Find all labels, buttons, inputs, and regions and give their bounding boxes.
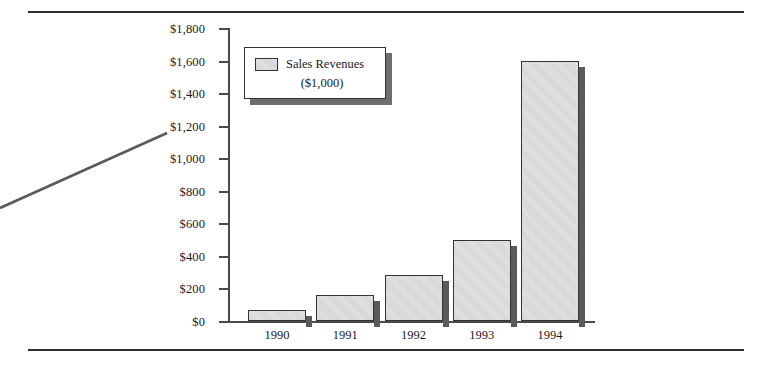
bar-body [385,275,443,321]
y-axis-tick: $1,400 [219,93,228,95]
legend-sublabel: ($1,000) [245,76,385,91]
bar [521,61,579,321]
y-axis-tick-label: $200 [180,282,205,297]
bar-body [248,310,306,321]
y-axis-line [228,28,230,323]
y-axis-tick-label: $600 [180,217,205,232]
x-axis-tick-label: 1991 [333,328,358,343]
bar-body [521,61,579,321]
bar [248,310,306,321]
top-rule [28,11,744,13]
x-axis-tick-label: 1990 [265,328,290,343]
legend-entry: Sales Revenues [255,57,364,72]
x-axis-line [228,321,595,323]
bar-shadow [443,281,449,327]
chart-legend: Sales Revenues ($1,000) [244,47,386,99]
y-axis-tick-label: $1,400 [170,87,205,102]
x-axis-tick-label: 1993 [469,328,494,343]
x-axis-tick-label: 1994 [537,328,562,343]
y-axis-tick: $1,000 [219,158,228,160]
bar-body [316,295,374,321]
bar-shadow [306,316,312,327]
y-axis-tick-label: $1,600 [170,54,205,69]
x-axis-tick-label: 1992 [401,328,426,343]
y-axis-tick: $1,200 [219,126,228,128]
bar [316,295,374,321]
figure-container: $0$200$400$600$800$1,000$1,200$1,400$1,6… [0,0,772,365]
y-axis-tick-label: $1,200 [170,119,205,134]
legend-swatch-icon [255,58,278,71]
y-axis-tick-label: $400 [180,249,205,264]
leader-line [0,120,172,215]
legend-label: Sales Revenues [286,57,364,72]
bar-body [453,240,511,321]
y-axis-tick: $600 [219,223,228,225]
legend-box: Sales Revenues ($1,000) [244,47,386,99]
y-axis-tick: $400 [219,256,228,258]
bar-shadow [374,301,380,327]
y-axis-tick: $1,800 [219,28,228,30]
y-axis-tick-label: $800 [180,184,205,199]
bar-shadow [511,246,517,327]
bar [453,240,511,321]
y-axis-tick: $800 [219,191,228,193]
y-axis-tick: $1,600 [219,61,228,63]
y-axis-tick-label: $0 [192,315,205,330]
bar [385,275,443,321]
bottom-rule [28,349,744,351]
y-axis-tick-label: $1,800 [170,22,205,37]
bar-shadow [579,67,585,327]
y-axis-tick: $0 [219,321,228,323]
y-axis-tick-label: $1,000 [170,152,205,167]
y-axis-tick: $200 [219,288,228,290]
